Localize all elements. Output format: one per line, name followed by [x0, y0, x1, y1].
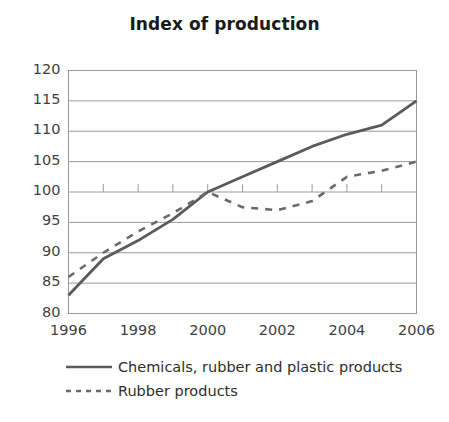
y-tick-label: 115	[21, 91, 61, 107]
legend-key-solid-line-icon	[64, 360, 118, 374]
x-axis-tick-marks	[69, 184, 417, 192]
legend-item-rubber-products: Rubber products	[64, 379, 444, 403]
y-tick-label: 95	[21, 212, 61, 228]
x-tick-label: 2000	[178, 322, 238, 338]
y-tick-label: 80	[21, 304, 61, 320]
x-tick-label: 2004	[317, 322, 377, 338]
x-tick-label: 2006	[387, 322, 447, 338]
y-tick-label: 100	[21, 182, 61, 198]
legend-label-rubber-products: Rubber products	[118, 383, 238, 399]
y-tick-label: 90	[21, 243, 61, 259]
legend-key-dashed-line-icon	[64, 384, 118, 398]
series-line-1	[69, 162, 417, 277]
series-line-0	[69, 101, 417, 295]
y-tick-label: 105	[21, 152, 61, 168]
chart-figure: Index of production 80859095100105110115…	[0, 0, 449, 422]
x-tick-label: 1998	[108, 322, 168, 338]
x-tick-label: 2002	[247, 322, 307, 338]
data-series-lines	[69, 101, 417, 295]
y-tick-label: 120	[21, 61, 61, 77]
legend-label-chemicals-rubber-plastic: Chemicals, rubber and plastic products	[118, 359, 402, 375]
x-tick-label: 1996	[39, 322, 99, 338]
y-tick-label: 110	[21, 121, 61, 137]
plot-area: 80859095100105110115120 1996199820002002…	[0, 0, 449, 350]
legend-item-chemicals-rubber-plastic: Chemicals, rubber and plastic products	[64, 355, 444, 379]
chart-legend: Chemicals, rubber and plastic products R…	[64, 355, 444, 403]
plot-svg	[0, 0, 449, 350]
y-tick-label: 85	[21, 273, 61, 289]
